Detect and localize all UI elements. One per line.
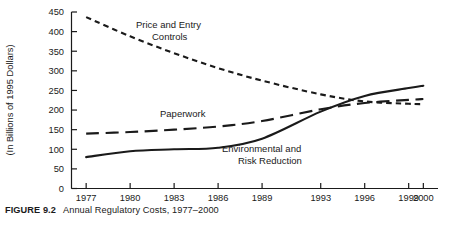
y-tick-label: 300 xyxy=(48,66,64,76)
x-axis-ticks xyxy=(86,183,423,189)
x-tick-label: 1989 xyxy=(252,193,273,203)
series-group xyxy=(86,17,423,157)
y-tick-label: 0 xyxy=(59,184,64,194)
figure-caption: FIGURE 9.2Annual Regulatory Costs, 1977–… xyxy=(5,205,445,215)
series-line-1 xyxy=(86,99,423,134)
y-tick-label: 200 xyxy=(48,105,64,115)
figure-caption-text: Annual Regulatory Costs, 1977–2000 xyxy=(63,205,219,215)
y-tick-label: 50 xyxy=(54,164,64,174)
figure-container: 050100150200250300350400450 197719801983… xyxy=(0,0,451,225)
x-tick-label: 1996 xyxy=(354,193,375,203)
chart-canvas: 050100150200250300350400450 197719801983… xyxy=(0,0,451,225)
y-tick-label: 400 xyxy=(48,27,64,37)
price-entry-label-line2: Controls xyxy=(152,31,188,42)
x-tick-label: 1983 xyxy=(164,193,185,203)
figure-caption-label: FIGURE 9.2 xyxy=(5,205,56,215)
x-tick-label: 2000 xyxy=(413,193,434,203)
paperwork-label: Paperwork xyxy=(160,108,206,119)
x-tick-label: 1980 xyxy=(120,193,141,203)
price-entry-label-line1: Price and Entry xyxy=(136,19,201,30)
y-tick-label: 350 xyxy=(48,47,64,57)
x-tick-label: 1977 xyxy=(76,193,97,203)
y-tick-label: 100 xyxy=(48,145,64,155)
y-tick-label: 150 xyxy=(48,125,64,135)
y-axis-title: (In Billions of 1995 Dollars) xyxy=(5,44,15,155)
series-line-0 xyxy=(86,17,423,104)
y-axis-ticks xyxy=(72,12,78,189)
x-axis-tick-labels: 197719801983198619891993199619992000 xyxy=(76,193,434,203)
x-tick-label: 1993 xyxy=(310,193,331,203)
x-tick-label: 1986 xyxy=(208,193,229,203)
y-tick-label: 450 xyxy=(48,7,64,17)
environmental-label-line1: Environmental and xyxy=(222,143,301,154)
y-tick-label: 250 xyxy=(48,86,64,96)
series-annotations: Price and Entry Controls Paperwork Envir… xyxy=(136,19,302,166)
environmental-label-line2: Risk Reduction xyxy=(238,155,302,166)
y-axis-tick-labels: 050100150200250300350400450 xyxy=(48,7,64,194)
